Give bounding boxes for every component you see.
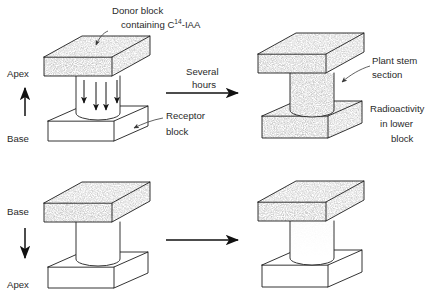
orientation-bottom-lower-label: Apex: [7, 279, 29, 290]
orientation-bottom-upper-label: Base: [7, 206, 29, 217]
receptor-block-label-line1: Receptor: [166, 110, 206, 121]
receptor-block-label-line2: block: [166, 126, 189, 137]
stem-section-top-left: [76, 76, 120, 120]
donor-block-label-line2: containing C14-IAA: [121, 18, 201, 30]
donor-block-label-line1: Donor block: [112, 5, 163, 16]
transition-top-label-line2: hours: [192, 79, 216, 90]
plant-stem-label-line1: Plant stem: [372, 55, 417, 66]
auxin-transport-diagram: Donor block containing C14-IAA Receptor …: [0, 0, 429, 302]
radioactivity-label-line1: Radioactivity: [370, 103, 425, 114]
stem-section-top-right: [290, 73, 334, 117]
figure-root: Donor block containing C14-IAA Receptor …: [0, 0, 429, 302]
plant-stem-label-line2: section: [372, 69, 402, 80]
transition-top-label-line1: Several: [186, 66, 219, 77]
stem-section-bottom-right: [290, 218, 334, 265]
radioactivity-label-line2: in lower: [380, 118, 414, 129]
orientation-top-upper-label: Apex: [7, 68, 29, 79]
orientation-top-lower-label: Base: [7, 133, 29, 144]
radioactivity-label-line3: block: [391, 133, 414, 144]
stem-section-bottom-left: [76, 222, 120, 266]
